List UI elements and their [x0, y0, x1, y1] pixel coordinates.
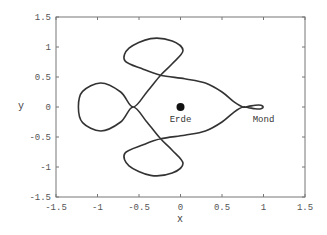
y-tick-label: -0.5: [29, 133, 51, 143]
erde-label: Erde: [170, 115, 192, 125]
x-axis-label: x: [177, 214, 183, 225]
x-tick-label: 1: [261, 203, 266, 213]
x-tick-label: 0: [178, 203, 183, 213]
y-tick-label: -1.5: [29, 193, 51, 203]
chart: -1.5-1-0.500.511.5-1.5-1-0.500.511.5 Erd…: [0, 0, 327, 235]
trajectory-line: [78, 38, 263, 176]
y-axis-label: y: [18, 101, 24, 112]
tick-labels: -1.5-1-0.500.511.5-1.5-1-0.500.511.5: [29, 13, 313, 213]
x-tick-label: 0.5: [214, 203, 230, 213]
mond-label: Mond: [253, 115, 275, 125]
x-tick-label: -1.5: [45, 203, 67, 213]
y-tick-label: 0.5: [35, 73, 51, 83]
y-tick-label: 1: [46, 43, 51, 53]
x-tick-label: -0.5: [128, 203, 150, 213]
y-tick-label: 0: [46, 103, 51, 113]
y-tick-label: 1.5: [35, 13, 51, 23]
y-tick-label: -1: [40, 163, 51, 173]
earth-marker: [177, 103, 185, 111]
x-tick-label: 1.5: [297, 203, 313, 213]
x-tick-label: -1: [92, 203, 103, 213]
